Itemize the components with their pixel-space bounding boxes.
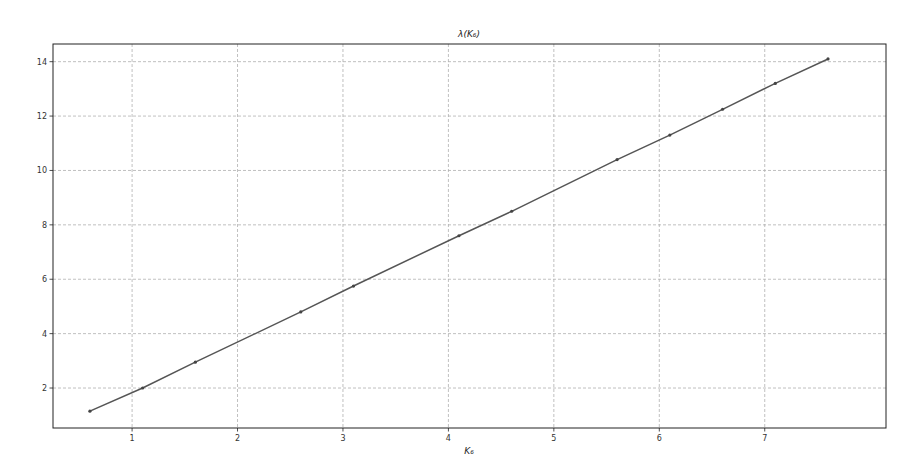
- y-tick-label: 12: [37, 112, 47, 121]
- data-point-marker: [721, 108, 724, 111]
- y-tick-label: 10: [37, 166, 47, 175]
- x-tick-label: 5: [551, 434, 556, 443]
- line-chart: 1234567 2468101214 λ(K₆) K₆: [0, 0, 923, 475]
- x-tick-label: 1: [130, 434, 135, 443]
- data-point-marker: [88, 410, 91, 413]
- data-point-marker: [194, 361, 197, 364]
- data-point-marker: [352, 284, 355, 287]
- data-point-marker: [141, 386, 144, 389]
- y-tick-label: 6: [42, 275, 47, 284]
- x-tick-label: 4: [446, 434, 451, 443]
- x-tick-label: 2: [235, 434, 240, 443]
- x-tick-label: 6: [657, 434, 662, 443]
- data-series: [88, 57, 829, 412]
- data-point-marker: [774, 82, 777, 85]
- x-axis-ticks: 1234567: [130, 428, 768, 443]
- data-point-marker: [668, 134, 671, 137]
- y-tick-label: 8: [42, 221, 47, 230]
- chart-title: λ(K₆): [457, 29, 480, 39]
- data-point-marker: [457, 234, 460, 237]
- data-point-marker: [616, 158, 619, 161]
- x-axis-label: K₆: [464, 446, 474, 456]
- x-tick-label: 3: [340, 434, 345, 443]
- y-tick-label: 4: [42, 330, 47, 339]
- data-point-marker: [826, 57, 829, 60]
- x-tick-label: 7: [762, 434, 767, 443]
- data-point-marker: [299, 310, 302, 313]
- y-axis-ticks: 2468101214: [37, 58, 53, 393]
- y-tick-label: 2: [42, 384, 47, 393]
- data-point-marker: [510, 210, 513, 213]
- y-tick-label: 14: [37, 58, 47, 67]
